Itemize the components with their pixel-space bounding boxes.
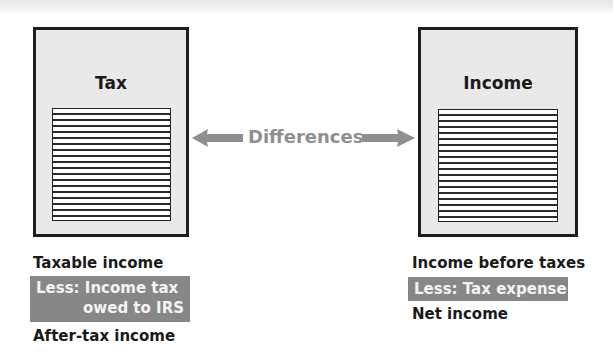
tax-return-title-line1: Tax xyxy=(95,73,127,93)
right-arrow-icon xyxy=(362,128,416,148)
tax-return-document: Tax Return xyxy=(33,27,189,237)
less-income-tax-line2: owed to IRS xyxy=(36,298,184,318)
less-income-tax-line1: Less: Income tax xyxy=(36,279,178,297)
income-statement-ruled-lines-icon xyxy=(438,109,558,222)
after-tax-income-label: After-tax income xyxy=(33,327,175,346)
tax-return-ruled-lines-icon xyxy=(52,108,171,221)
left-arrow-icon xyxy=(192,128,244,148)
less-income-tax-highlight: Less: Income tax owed to IRS xyxy=(30,276,190,322)
net-income-label: Net income xyxy=(412,305,508,324)
income-statement-document: Income Statement xyxy=(418,27,578,237)
less-tax-expense-highlight: Less: Tax expense xyxy=(408,277,568,301)
taxable-income-label: Taxable income xyxy=(33,254,163,273)
income-before-taxes-label: Income before taxes xyxy=(412,254,585,273)
differences-label: Differences xyxy=(248,126,363,148)
top-shade xyxy=(0,0,613,14)
income-statement-title-line1: Income xyxy=(463,73,532,93)
less-tax-expense-line1: Less: Tax expense xyxy=(414,280,567,298)
